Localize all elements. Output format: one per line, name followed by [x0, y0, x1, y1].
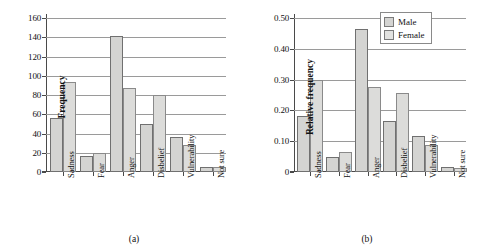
- category-label: Not sure: [457, 150, 467, 178]
- category-label: Anger: [126, 157, 136, 178]
- y-tick-label: 0: [37, 167, 41, 177]
- panel-caption-a: (a): [0, 234, 238, 244]
- bar-not-sure-male: [441, 167, 454, 172]
- x-tick-mark: [63, 172, 64, 176]
- y-tick-mark: [42, 172, 46, 173]
- x-tick-mark: [153, 172, 154, 176]
- x-tick-mark: [213, 172, 214, 176]
- x-tick-mark: [339, 172, 340, 176]
- legend-swatch-icon: [384, 17, 394, 27]
- y-tick-label: 40: [32, 129, 41, 139]
- plot-area-a: 020406080100120140160 SadnessFearAngerDi…: [46, 18, 226, 172]
- category-label: Disbelief: [156, 148, 166, 178]
- x-tick-mark: [454, 172, 455, 176]
- bar-not-sure-male: [200, 167, 213, 172]
- bar-disbelief-male: [383, 121, 396, 172]
- bar-anger-male: [110, 36, 123, 172]
- bar-fear-male: [80, 156, 93, 172]
- y-tick-label: 0.30: [274, 75, 289, 85]
- bar-anger-male: [355, 29, 368, 172]
- y-tick-label: 0.50: [274, 13, 289, 23]
- legend-swatch-icon: [384, 30, 394, 40]
- y-axis-title-b: Relative frequency: [305, 59, 315, 135]
- y-tick-label: 160: [28, 13, 41, 23]
- legend-label: Female: [398, 30, 425, 40]
- bar-fear-male: [326, 157, 339, 172]
- category-label: Not sure: [216, 150, 226, 178]
- category-label: Vulnerability: [428, 134, 438, 178]
- chart-panel-a: 020406080100120140160 SadnessFearAngerDi…: [0, 0, 238, 248]
- y-tick-label: 80: [32, 90, 41, 100]
- figure-container: 020406080100120140160 SadnessFearAngerDi…: [0, 0, 477, 248]
- y-tick-label: 0.20: [274, 105, 289, 115]
- bar-vulnerability-male: [170, 137, 183, 172]
- category-label: Vulnerability: [186, 134, 196, 178]
- category-label: Fear: [96, 163, 106, 178]
- x-tick-mark: [123, 172, 124, 176]
- legend-label: Male: [398, 17, 417, 27]
- x-tick-mark: [425, 172, 426, 176]
- bar-sadness-male: [50, 118, 63, 172]
- x-tick-mark: [93, 172, 94, 176]
- y-tick-label: 60: [32, 109, 41, 119]
- y-tick-label: 0.40: [274, 44, 289, 54]
- bar-disbelief-male: [140, 124, 153, 172]
- chart-legend: MaleFemale: [380, 12, 432, 44]
- category-label: Sadness: [313, 151, 323, 178]
- y-tick-mark: [290, 172, 294, 173]
- y-tick-label: 0.10: [274, 136, 289, 146]
- chart-panel-b: 00.100.200.300.400.50 SadnessFearAngerDi…: [238, 0, 476, 248]
- x-tick-mark: [368, 172, 369, 176]
- category-label: Anger: [371, 157, 381, 178]
- bar-vulnerability-male: [412, 136, 425, 172]
- y-tick-label: 140: [28, 32, 41, 42]
- bars-layer-a: SadnessFearAngerDisbeliefVulnerabilityNo…: [46, 18, 226, 172]
- category-label: Fear: [342, 163, 352, 178]
- y-tick-label: 20: [32, 148, 41, 158]
- x-tick-mark: [310, 172, 311, 176]
- x-tick-mark: [183, 172, 184, 176]
- x-tick-mark: [396, 172, 397, 176]
- category-label: Sadness: [66, 151, 76, 178]
- y-axis-title-a: Frequency: [57, 75, 67, 118]
- category-label: Disbelief: [399, 148, 409, 178]
- legend-item-male: Male: [384, 15, 425, 28]
- y-tick-label: 120: [28, 52, 41, 62]
- y-tick-label: 100: [28, 71, 41, 81]
- y-tick-label: 0: [285, 167, 289, 177]
- legend-item-female: Female: [384, 28, 425, 41]
- panel-caption-b: (b): [238, 234, 476, 244]
